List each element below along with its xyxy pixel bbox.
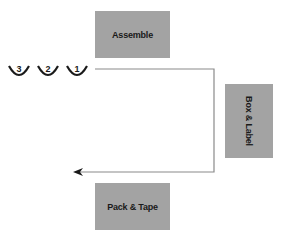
queue-item-1: 1	[65, 62, 89, 80]
station-label: Assemble	[112, 30, 153, 40]
station-label: Box & Label	[244, 96, 254, 146]
station-assemble: Assemble	[95, 11, 170, 58]
station-pack-tape: Pack & Tape	[95, 183, 170, 230]
station-box-label: Box & Label	[225, 84, 273, 158]
queue-item-2: 2	[36, 62, 60, 80]
station-label: Pack & Tape	[107, 202, 158, 212]
queue-item-3: 3	[7, 62, 31, 80]
